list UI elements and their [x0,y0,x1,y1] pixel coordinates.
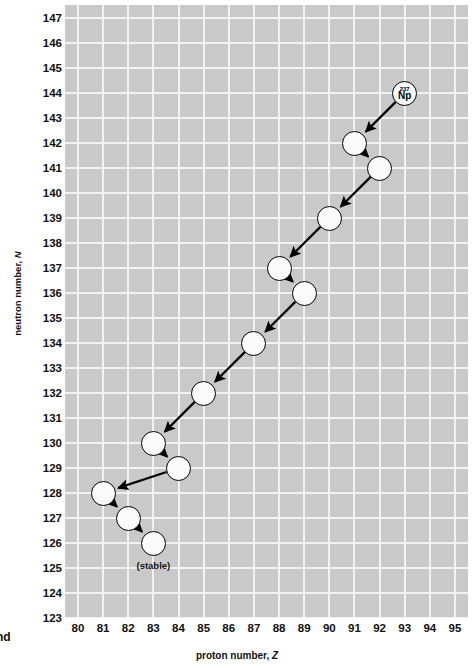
y-tick-label: 139 [6,212,62,224]
gridline-vertical [203,5,205,618]
y-tick-label: 147 [6,12,62,24]
gridline-horizontal [65,617,468,618]
gridline-vertical [454,5,456,618]
x-axis-title: proton number, Z [0,650,474,661]
y-tick-label: 127 [6,512,62,524]
gridline-horizontal [65,417,468,419]
gridline-vertical [152,5,154,618]
gridline-vertical [102,5,104,618]
gridline-vertical [328,5,330,618]
gridline-horizontal [65,242,468,244]
cropped-margin-text: nd [0,630,10,644]
gridline-vertical [429,5,431,618]
y-tick-label: 133 [6,362,62,374]
nuclide-label: 237Np [392,81,417,106]
gridline-vertical [353,5,355,618]
nuclide-node [292,281,317,306]
y-tick-label: 146 [6,37,62,49]
y-tick-label: 144 [6,87,62,99]
nuclide-node [141,431,166,456]
gridline-horizontal [65,217,468,219]
y-axis-title-text: neutron number, [12,258,23,336]
y-tick-label: 131 [6,412,62,424]
y-tick-label: 126 [6,537,62,549]
y-tick-label: 124 [6,587,62,599]
gridline-horizontal [65,542,468,544]
x-axis-title-text: proton number, [196,650,272,661]
nuclide-node [191,381,216,406]
gridline-horizontal [65,567,468,569]
gridline-vertical [77,5,79,618]
nuclide-node [91,481,116,506]
y-axis-title-symbol: N [12,251,23,258]
gridline-vertical [178,5,180,618]
y-axis-title: neutron number, N [12,234,23,354]
stable-label: (stable) [136,560,170,571]
y-tick-label: 142 [6,137,62,149]
nuclide-node [367,156,392,181]
gridline-horizontal [65,467,468,469]
gridline-horizontal [65,67,468,69]
gridline-horizontal [65,142,468,144]
y-tick-label: 130 [6,437,62,449]
gridline-vertical [253,5,255,618]
nuclide-node [166,456,191,481]
gridline-horizontal [65,42,468,44]
x-axis-tick-labels: 80818283848586878889909192939495 [0,622,474,642]
y-tick-label: 129 [6,462,62,474]
gridline-horizontal [65,192,468,194]
y-axis-tick-labels: 1471461451441431421411401391381371361351… [0,0,62,670]
y-tick-label: 145 [6,62,62,74]
x-tick-label: 95 [435,622,474,634]
y-tick-label: 141 [6,162,62,174]
gridline-horizontal [65,442,468,444]
nuclide-node [342,131,367,156]
y-tick-label: 140 [6,187,62,199]
y-tick-label: 128 [6,487,62,499]
gridline-horizontal [65,492,468,494]
x-axis-title-symbol: Z [272,650,278,661]
gridline-horizontal [65,117,468,119]
y-tick-label: 125 [6,562,62,574]
nuclide-node [116,506,141,531]
nuclide-node [317,206,342,231]
gridline-vertical [228,5,230,618]
nuclide-node [241,331,266,356]
gridline-horizontal [65,392,468,394]
gridline-horizontal [65,167,468,169]
gridline-vertical [278,5,280,618]
gridline-horizontal [65,592,468,594]
nuclide-element-symbol: Np [392,91,417,101]
gridline-horizontal [65,17,468,19]
gridline-horizontal [65,367,468,369]
y-tick-label: 143 [6,112,62,124]
gridline-horizontal [65,317,468,319]
y-tick-label: 132 [6,387,62,399]
gridline-vertical [303,5,305,618]
nuclide-node [141,531,166,556]
gridline-horizontal [65,342,468,344]
nuclide-chart-figure: 1471461451441431421411401391381371361351… [0,0,474,670]
nuclide-node [267,256,292,281]
gridline-vertical [379,5,381,618]
gridline-horizontal [65,292,468,294]
